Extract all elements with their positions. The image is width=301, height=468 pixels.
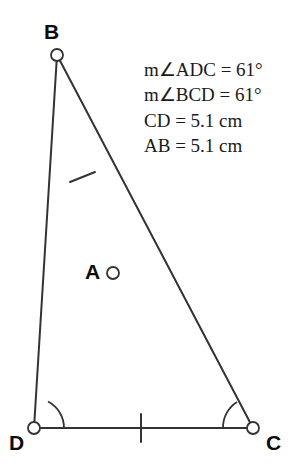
measurement-list: m∠ADC = 61° m∠BCD = 61° CD = 5.1 cm AB =… <box>144 57 263 158</box>
vertex-label-b: B <box>44 21 59 42</box>
vertex-marker-d <box>28 422 40 434</box>
vertex-marker-a <box>107 267 119 279</box>
tick-mark-ba <box>70 172 95 182</box>
measurement-length-cd: CD = 5.1 cm <box>144 108 263 133</box>
vertex-label-a: A <box>85 261 100 282</box>
vertex-label-d: D <box>9 432 24 453</box>
measurement-angle-bcd: m∠BCD = 61° <box>144 82 263 107</box>
vertex-marker-c <box>247 422 259 434</box>
segment-bd <box>34 55 57 428</box>
vertex-marker-b <box>51 49 63 61</box>
measurement-length-ab: AB = 5.1 cm <box>144 133 263 158</box>
angle-arc-d <box>48 402 64 429</box>
geometry-figure: B A D C m∠ADC = 61° m∠BCD = 61° CD = 5.1… <box>0 0 301 468</box>
angle-arc-c <box>223 402 237 428</box>
measurement-angle-adc: m∠ADC = 61° <box>144 57 263 82</box>
vertex-label-c: C <box>266 432 281 453</box>
